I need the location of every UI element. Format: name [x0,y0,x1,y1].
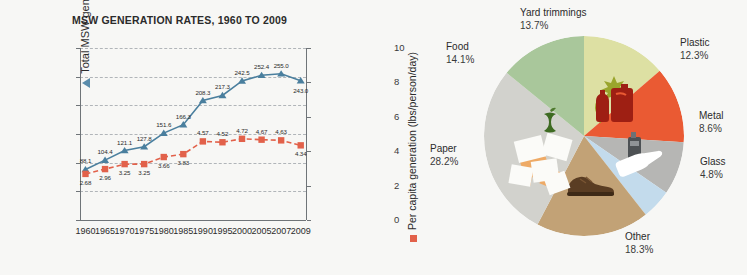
data-point-label: 151.6 [151,121,177,128]
pie-label-paper: Paper 28.2% [430,142,458,168]
y-axis-right-tickmark [307,48,311,49]
data-point-label: 4.63 [268,128,294,135]
pie-label-yard-trimmings-pct: 13.7% [520,19,587,32]
y-axis-right-tickmark [307,220,311,221]
square-data-marker [278,137,284,143]
pie-label-plastic-pct: 12.3% [680,49,709,62]
line-chart-plot-area: 3002502001501005001086420196019651970197… [80,48,306,220]
data-point-label: 243.0 [288,87,314,94]
pie-label-metal-pct: 8.6% [699,122,723,135]
pie-label-plastic-name: Plastic [680,36,709,49]
pie-label-other: Other 18.3% [625,230,653,256]
pie-label-other-name: Other [625,230,653,243]
data-point-label: 104.4 [92,148,118,155]
square-data-marker [161,154,167,160]
y-axis-right-line [306,48,307,220]
pie-label-yard-trimmings-name: Yard trimmings [520,6,587,19]
square-data-marker [102,166,108,172]
y-axis-right-tickmark [307,82,311,83]
square-data-marker [298,142,304,148]
pie-label-food-name: Food [446,40,474,53]
square-data-marker [219,139,225,145]
data-point-label: 166.3 [170,113,196,120]
data-point-label: 3.25 [131,169,157,176]
data-point-label: 3.83 [170,159,196,166]
square-data-marker [141,161,147,167]
pie-label-metal-name: Metal [699,109,723,122]
pie-label-glass-name: Glass [700,155,726,168]
pie-label-other-pct: 18.3% [625,243,653,256]
triangle-data-marker [101,157,109,163]
pie-label-yard-trimmings: Yard trimmings 13.7% [520,6,587,32]
line-chart-title: MSW GENERATION RATES, 1960 TO 2009 [72,14,287,26]
y-axis-left-label: Total MSW generation (million tons) [0,0,16,66]
square-data-marker [239,136,245,142]
pie-label-glass: Glass 4.8% [700,155,726,181]
data-point-label: 88.1 [72,157,98,164]
square-data-marker [258,136,264,142]
pie-svg [484,36,684,236]
pie-chart [484,36,684,236]
square-data-marker [82,171,88,177]
y-axis-right-tickmark [307,117,311,118]
x-axis-tick-label: 2009 [284,226,318,236]
pie-label-paper-name: Paper [430,142,458,155]
data-point-label: 217.3 [209,83,235,90]
square-data-marker [200,138,206,144]
pie-label-food: Food 14.1% [446,40,474,66]
square-data-marker [180,151,186,157]
pie-label-food-pct: 14.1% [446,53,474,66]
data-point-label: 255.0 [268,62,294,69]
pie-chart-panel: Yard trimmings 13.7% Plastic 12.3% Metal… [412,0,747,275]
pie-label-glass-pct: 4.8% [700,168,726,181]
x-axis-line [80,220,306,221]
square-data-marker [121,161,127,167]
data-point-label: 4.34 [288,150,314,157]
data-point-label: 127.8 [131,135,157,142]
msw-infographic: MSW GENERATION RATES, 1960 TO 2009 Total… [0,0,747,275]
line-chart-panel: MSW GENERATION RATES, 1960 TO 2009 Total… [0,0,410,275]
pie-label-metal: Metal 8.6% [699,109,723,135]
pie-label-plastic: Plastic 12.3% [680,36,709,62]
pie-label-paper-pct: 28.2% [430,155,458,168]
y-axis-right-tickmark [307,186,311,187]
